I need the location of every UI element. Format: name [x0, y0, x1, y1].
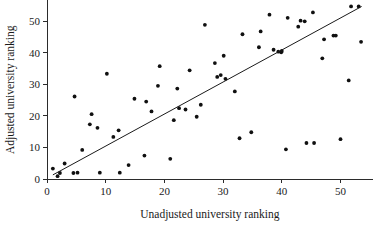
scatter-point — [203, 23, 207, 27]
scatter-point — [175, 87, 179, 91]
y-axis-title: Adjusted university ranking — [4, 25, 17, 154]
y-tick-label: 40 — [29, 47, 41, 59]
scatter-point — [76, 171, 80, 175]
scatter-point — [305, 141, 309, 145]
scatter-point — [320, 56, 324, 60]
scatter-point — [72, 171, 76, 175]
scatter-point — [296, 25, 300, 29]
scatter-point — [184, 108, 188, 112]
scatter-point — [105, 72, 109, 76]
scatter-point — [127, 163, 131, 167]
fit-line-group — [53, 6, 362, 174]
scatter-point — [286, 16, 290, 20]
x-axis-title: Unadjusted university ranking — [140, 208, 280, 221]
scatter-point — [259, 30, 263, 34]
x-tick-label: 10 — [100, 185, 112, 197]
x-tick-label: 0 — [44, 185, 50, 197]
scatter-point — [249, 130, 253, 134]
scatter-point — [63, 162, 67, 166]
scatter-point — [51, 167, 55, 171]
x-tick-label: 20 — [159, 185, 171, 197]
scatter-point — [73, 95, 77, 99]
scatter-plot-figure: 0102030405001020304050 Unadjusted univer… — [0, 0, 392, 229]
scatter-point — [311, 11, 315, 15]
scatter-point — [156, 84, 160, 88]
scatter-point — [88, 122, 92, 126]
y-tick-label: 30 — [29, 78, 41, 90]
scatter-point — [144, 100, 148, 104]
scatter-point — [168, 157, 172, 161]
scatter-point — [272, 48, 276, 52]
scatter-point — [339, 137, 343, 141]
scatter-point — [268, 13, 272, 17]
scatter-point — [322, 37, 326, 41]
scatter-point — [117, 128, 121, 132]
scatter-point — [172, 118, 176, 122]
scatter-point — [90, 112, 94, 116]
reference-fit-line — [53, 6, 362, 174]
scatter-point — [195, 115, 199, 119]
scatter-point — [199, 103, 203, 107]
scatter-point — [284, 147, 288, 151]
scatter-point — [222, 54, 226, 58]
scatter-point — [219, 73, 223, 77]
scatter-point — [111, 135, 115, 139]
scatter-point — [143, 154, 147, 158]
x-tick-label: 40 — [276, 185, 288, 197]
x-tick-label: 50 — [335, 185, 347, 197]
scatter-point — [133, 97, 137, 101]
plot-canvas: 0102030405001020304050 Unadjusted univer… — [0, 0, 392, 229]
scatter-point — [334, 34, 338, 38]
scatter-point — [56, 174, 60, 178]
y-tick-label: 20 — [29, 110, 41, 122]
scatter-point — [303, 19, 307, 23]
scatter-point — [213, 61, 217, 65]
scatter-point — [80, 148, 84, 152]
y-tick-label: 50 — [29, 15, 41, 27]
scatter-point — [188, 68, 192, 72]
y-tick-label: 0 — [35, 173, 41, 185]
scatter-point — [118, 171, 122, 175]
scatter-point — [98, 171, 102, 175]
scatter-point — [215, 75, 219, 79]
scatter-point — [299, 19, 303, 23]
scatter-point — [96, 126, 100, 130]
scatter-point — [233, 90, 237, 94]
scatter-point — [241, 32, 245, 36]
scatter-point — [347, 79, 351, 83]
scatter-point — [238, 136, 242, 140]
scatter-point — [349, 5, 353, 9]
x-tick-label: 30 — [218, 185, 230, 197]
axes-group: 0102030405001020304050 — [29, 0, 373, 197]
scatter-point — [158, 64, 162, 68]
y-tick-label: 10 — [29, 141, 41, 153]
scatter-point — [257, 45, 261, 49]
scatter-point — [150, 109, 154, 113]
scatter-point — [359, 40, 363, 44]
scatter-point — [312, 141, 316, 145]
